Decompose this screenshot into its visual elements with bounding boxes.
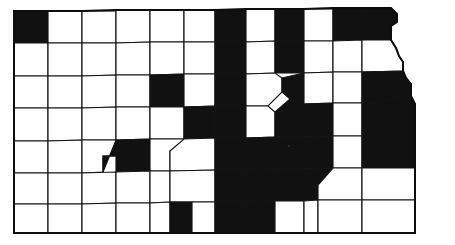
county-r2c8[interactable]: [246, 41, 275, 74]
county-row-6: [14, 168, 415, 204]
county-r5c12[interactable]: [362, 136, 415, 168]
county-r1c5[interactable]: [150, 10, 184, 42]
county-r6c2[interactable]: [48, 173, 82, 204]
county-r4c3[interactable]: [82, 107, 116, 140]
county-r4c7[interactable]: [215, 106, 246, 138]
county-r1c8[interactable]: [246, 9, 275, 42]
county-r2c3[interactable]: [82, 43, 116, 76]
county-row-7: [14, 200, 415, 233]
county-r4c1[interactable]: [14, 108, 48, 141]
county-r2c5[interactable]: [150, 42, 184, 75]
county-r6c8[interactable]: [246, 169, 275, 202]
county-r7c6[interactable]: [170, 202, 192, 233]
county-r2c12[interactable]: [362, 40, 403, 72]
county-r3c11[interactable]: [333, 72, 362, 103]
county-r4c11[interactable]: [333, 103, 362, 136]
county-r5c11[interactable]: [333, 136, 362, 168]
county-r1c6[interactable]: [184, 10, 215, 42]
county-r7c11[interactable]: [304, 200, 318, 233]
county-r7c13[interactable]: [362, 200, 415, 233]
county-r5c8[interactable]: [246, 137, 275, 170]
county-r6c1[interactable]: [14, 173, 48, 204]
county-r6c4[interactable]: [116, 171, 150, 203]
county-r1c2[interactable]: [48, 11, 82, 43]
county-r3c10[interactable]: [304, 72, 333, 104]
county-r2c4[interactable]: [116, 42, 150, 75]
county-r6c5[interactable]: [150, 171, 170, 203]
county-r1c10[interactable]: [304, 9, 333, 41]
county-r4c9[interactable]: [275, 99, 304, 137]
county-r5c7[interactable]: [215, 138, 246, 170]
county-r1c7[interactable]: [215, 10, 246, 42]
county-r6c3[interactable]: [82, 172, 116, 204]
county-r4c6[interactable]: [184, 106, 215, 139]
map-speck: [288, 145, 291, 148]
county-r2c11[interactable]: [333, 40, 362, 72]
county-r3c7[interactable]: [215, 74, 246, 106]
county-r1c9[interactable]: [275, 9, 304, 41]
county-r5c2[interactable]: [48, 140, 82, 173]
county-r7c9[interactable]: [246, 201, 275, 233]
county-r2c1[interactable]: [14, 43, 48, 76]
county-r2c6[interactable]: [184, 42, 215, 74]
county-r4c4[interactable]: [116, 107, 150, 140]
county-r1c1[interactable]: [14, 11, 48, 43]
county-r7c1[interactable]: [14, 204, 48, 233]
county-r7c4[interactable]: [116, 203, 150, 233]
county-r1c4[interactable]: [116, 10, 150, 43]
county-r6c9[interactable]: [275, 169, 304, 201]
county-row-2: [14, 40, 403, 76]
county-r7c7[interactable]: [192, 202, 215, 233]
county-r4c5[interactable]: [150, 107, 184, 139]
county-r7c10[interactable]: [275, 201, 304, 233]
county-r4c10[interactable]: [304, 103, 333, 137]
county-r1c11[interactable]: [333, 8, 362, 41]
county-r3c6[interactable]: [184, 74, 215, 107]
county-r2c9[interactable]: [275, 41, 304, 73]
county-r7c12[interactable]: [318, 200, 362, 233]
county-r3c3[interactable]: [82, 75, 116, 108]
county-r3c1[interactable]: [14, 76, 48, 108]
county-r1c3[interactable]: [82, 11, 116, 43]
county-r2c7[interactable]: [215, 42, 246, 74]
county-r2c10[interactable]: [304, 41, 333, 73]
county-r7c8[interactable]: [215, 202, 246, 233]
county-r6c7[interactable]: [215, 170, 246, 202]
county-row-1: [14, 8, 397, 43]
county-r3c5[interactable]: [150, 74, 184, 107]
county-r7c3[interactable]: [82, 203, 116, 233]
county-r3c2[interactable]: [48, 76, 82, 108]
county-r4c2[interactable]: [48, 108, 82, 141]
county-r6c6[interactable]: [170, 170, 215, 202]
county-r6c12[interactable]: [362, 168, 415, 200]
county-r2c2[interactable]: [48, 43, 82, 76]
kansas-county-map[interactable]: [0, 0, 455, 245]
county-r3c4[interactable]: [116, 75, 150, 107]
county-r7c5[interactable]: [150, 202, 170, 233]
county-r5c9[interactable]: [275, 137, 304, 169]
county-r5c1[interactable]: [14, 141, 48, 173]
county-r4c8[interactable]: [246, 106, 275, 138]
county-r5c10[interactable]: [304, 136, 333, 169]
county-r3c8[interactable]: [246, 73, 282, 106]
county-r7c2[interactable]: [48, 204, 82, 233]
map-container: [0, 0, 455, 245]
county-r3c9[interactable]: [282, 73, 304, 104]
